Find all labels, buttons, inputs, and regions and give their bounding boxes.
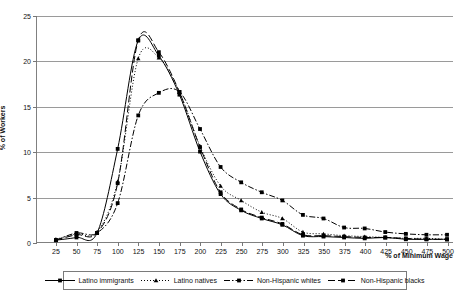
data-point-marker (301, 233, 305, 237)
x-tick (221, 242, 222, 246)
x-tick (448, 242, 449, 246)
x-tick-label: 50 (73, 248, 81, 255)
data-point-marker (198, 127, 202, 131)
data-point-marker (219, 190, 223, 194)
data-point-marker (75, 233, 79, 237)
data-point-marker (260, 210, 264, 214)
legend-item-non-hispanic-whites[interactable]: Non-Hispanic whites (224, 276, 321, 285)
x-tick-label: 225 (215, 248, 227, 255)
legend-item-non-hispanic-blacks[interactable]: Non-Hispanic blacks (328, 276, 425, 285)
y-tick (33, 243, 37, 244)
chart-legend: Latino immigrantsLatino nativesNon-Hispa… (63, 271, 407, 290)
series-line (56, 32, 447, 241)
data-point-marker (342, 235, 346, 239)
x-tick-label: 125 (133, 248, 145, 255)
data-point-marker (136, 39, 140, 43)
x-tick (242, 242, 243, 246)
data-point-marker (198, 145, 202, 149)
data-point-marker (445, 237, 449, 241)
x-tick-label: 350 (318, 248, 330, 255)
legend-item-latino-natives[interactable]: Latino natives (141, 276, 217, 285)
data-point-marker (404, 232, 408, 236)
x-tick-label: 75 (93, 248, 101, 255)
y-axis-title: % of Workers (0, 106, 6, 151)
data-point-marker (260, 190, 264, 194)
legend-label: Non-Hispanic blacks (361, 277, 425, 284)
legend-label: Non-Hispanic whites (257, 277, 321, 284)
series-non-hispanic-blacks (54, 32, 449, 242)
legend-swatch-dotted (141, 276, 171, 285)
x-tick (283, 242, 284, 246)
y-tick-label: 5 (27, 194, 31, 201)
series-non-hispanic-whites (54, 89, 449, 243)
x-tick (365, 242, 366, 246)
data-point-marker (322, 217, 326, 221)
x-tick (304, 242, 305, 246)
x-tick (200, 242, 201, 246)
data-point-marker (239, 208, 243, 212)
x-tick (159, 242, 160, 246)
data-point-marker (342, 226, 346, 230)
data-point-marker (383, 230, 387, 234)
data-point-marker (301, 213, 305, 217)
y-tick-label: 15 (23, 103, 31, 110)
x-tick (386, 242, 387, 246)
legend-swatch-long-dash (328, 276, 358, 285)
x-tick (407, 242, 408, 246)
data-point-marker (178, 90, 182, 94)
x-axis-title: % of Minimum Wage (385, 252, 453, 259)
x-tick (56, 242, 57, 246)
x-tick (427, 242, 428, 246)
data-point-marker (136, 56, 140, 60)
data-point-marker (157, 91, 161, 95)
data-point-marker (445, 233, 449, 237)
data-point-marker (95, 231, 99, 235)
x-tick-label: 175 (174, 248, 186, 255)
data-point-marker (54, 238, 58, 242)
data-point-marker (219, 165, 223, 169)
x-tick (262, 242, 263, 246)
x-tick (77, 242, 78, 246)
data-point-marker (425, 233, 429, 237)
legend-item-latino-immigrants[interactable]: Latino immigrants (45, 276, 133, 285)
x-tick-label: 25 (52, 248, 60, 255)
x-tick-label: 150 (153, 248, 165, 255)
x-tick-label: 275 (256, 248, 268, 255)
x-tick-label: 100 (112, 248, 124, 255)
data-point-marker (239, 180, 243, 184)
plot-area: 0510152025 25507510012515017520022525027… (36, 16, 453, 243)
y-tick-label: 20 (23, 58, 31, 65)
series-latino-natives (54, 48, 450, 242)
data-point-marker (280, 199, 284, 203)
x-tick-label: 325 (298, 248, 310, 255)
y-tick-label: 0 (27, 240, 31, 247)
data-point-marker (322, 234, 326, 238)
series-line (56, 35, 447, 241)
data-point-marker (363, 236, 367, 240)
x-tick-label: 300 (277, 248, 289, 255)
data-point-marker (136, 114, 140, 118)
x-tick-label: 200 (195, 248, 207, 255)
data-point-marker (116, 181, 120, 185)
data-point-marker (239, 198, 243, 202)
x-tick (118, 242, 119, 246)
y-tick-label: 10 (23, 149, 31, 156)
data-point-marker (425, 237, 429, 241)
x-tick (345, 242, 346, 246)
data-point-marker (260, 216, 264, 220)
x-tick (97, 242, 98, 246)
data-point-marker (363, 227, 367, 231)
series-latino-immigrants (54, 35, 449, 242)
legend-swatch-dash-dot (224, 276, 254, 285)
x-tick (324, 242, 325, 246)
data-point-marker (116, 201, 120, 205)
data-point-marker (280, 222, 284, 226)
data-point-marker (383, 236, 387, 240)
x-tick-label: 250 (236, 248, 248, 255)
figure-container: % of Workers 0510152025 2550751001251501… (0, 0, 468, 307)
series-layer (37, 16, 453, 242)
x-tick (138, 242, 139, 246)
x-tick-label: 375 (339, 248, 351, 255)
data-point-marker (116, 147, 120, 151)
legend-label: Latino immigrants (78, 277, 133, 284)
